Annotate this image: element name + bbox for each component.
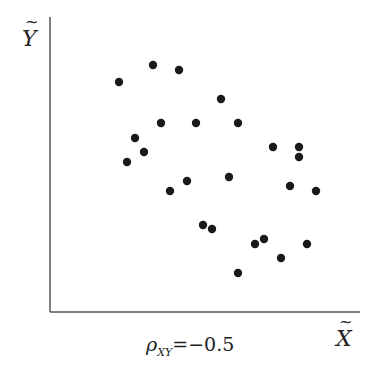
data-points (115, 61, 320, 277)
data-point (140, 148, 148, 156)
data-point (277, 254, 285, 262)
x-axis-label: ~ X (336, 326, 352, 351)
data-point (260, 235, 268, 243)
data-point (208, 225, 216, 233)
data-point (149, 61, 157, 69)
data-point (115, 78, 123, 86)
tilde-mark: ~ (25, 12, 38, 31)
tilde-mark: ~ (339, 312, 352, 331)
correlation-annotation: ρXY=−0.5 (146, 333, 234, 359)
rho-subscript: XY (157, 346, 172, 359)
data-point (192, 119, 200, 127)
data-point (286, 182, 294, 190)
data-point (199, 221, 207, 229)
data-point (131, 134, 139, 142)
data-point (295, 153, 303, 161)
data-point (157, 119, 165, 127)
data-point (234, 269, 242, 277)
rho-symbol: ρ (146, 333, 157, 355)
data-point (123, 158, 131, 166)
scatter-plot (0, 0, 390, 375)
data-point (303, 240, 311, 248)
data-point (312, 187, 320, 195)
data-point (183, 177, 191, 185)
data-point (234, 119, 242, 127)
rho-value: =−0.5 (172, 333, 234, 355)
data-point (295, 143, 303, 151)
data-point (175, 66, 183, 74)
y-axis-label: ~ Y (22, 26, 37, 51)
data-point (217, 95, 225, 103)
data-point (166, 187, 174, 195)
data-point (251, 240, 259, 248)
data-point (269, 143, 277, 151)
data-point (225, 173, 233, 181)
